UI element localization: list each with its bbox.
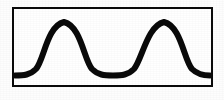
waveform-figure: Sinusoidal waveform in rectangular frame…	[0, 0, 224, 100]
waveform-canvas	[0, 0, 224, 100]
